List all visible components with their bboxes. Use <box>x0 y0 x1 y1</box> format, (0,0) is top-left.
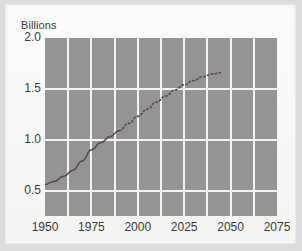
x-tick-label: 1975 <box>78 220 105 234</box>
x-tick-label: 2075 <box>264 220 291 234</box>
x-tick-label: 1950 <box>32 220 59 234</box>
y-tick-label: 1.0 <box>3 132 41 146</box>
y-tick-label: 1.5 <box>3 81 41 95</box>
series-line-historical <box>45 131 119 185</box>
x-tick-label: 2025 <box>171 220 198 234</box>
chart-screenshot: Billions 2.01.51.00.5 195019752000202520… <box>0 0 302 251</box>
x-tick-label: 2000 <box>124 220 151 234</box>
series-line-projection <box>119 73 221 131</box>
series-layer <box>45 38 277 216</box>
y-tick-label: 0.5 <box>3 183 41 197</box>
y-axis-tick-labels: 2.01.51.00.5 <box>0 38 41 216</box>
x-axis-tick-labels: 195019752000202520502075 <box>45 220 277 238</box>
plot-area <box>45 38 277 216</box>
y-tick-label: 2.0 <box>3 30 41 44</box>
x-tick-label: 2050 <box>217 220 244 234</box>
